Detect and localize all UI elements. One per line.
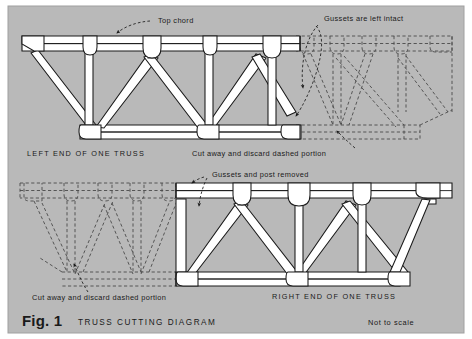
label-gussets-intact: Gussets are left intact bbox=[324, 14, 404, 23]
truss-cutting-diagram: Top chord Gussets are left intact LEFT E… bbox=[0, 0, 472, 339]
label-gussets-post-removed: Gussets and post removed bbox=[212, 170, 309, 179]
figure-title: TRUSS CUTTING DIAGRAM bbox=[78, 318, 216, 327]
label-cut-away-bottom: Cut away and discard dashed portion bbox=[32, 293, 166, 302]
label-left-end: LEFT END OF ONE TRUSS bbox=[27, 149, 145, 158]
label-top-chord: Top chord bbox=[158, 16, 194, 25]
scale-note: Not to scale bbox=[368, 318, 414, 327]
label-cut-away-top: Cut away and discard dashed portion bbox=[192, 149, 326, 158]
figure-number: Fig. 1 bbox=[22, 312, 62, 329]
figure-root: Top chord Gussets are left intact LEFT E… bbox=[0, 0, 472, 339]
label-right-end: RIGHT END OF ONE TRUSS bbox=[272, 292, 396, 301]
